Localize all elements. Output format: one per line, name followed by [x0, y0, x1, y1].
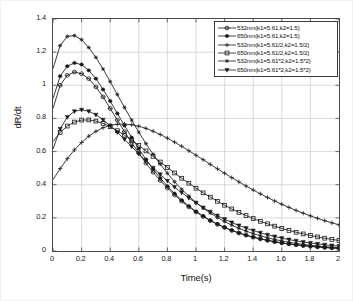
- x-tick-label: 2: [323, 254, 353, 263]
- x-tick-label: 1: [180, 254, 210, 263]
- legend-label: 532nm(k1=5.61*2,k2=1.5*2): [237, 57, 311, 65]
- y-tick-label: 1.2: [0, 46, 46, 55]
- x-tick-label: 1.6: [266, 254, 296, 263]
- legend-label: 532nm(k1=5.61/2,k2=1.5/2): [237, 41, 309, 49]
- y-tick-label: 0.2: [0, 212, 46, 221]
- chart-page: 00.20.40.60.811.21.4 00.20.40.60.811.21.…: [0, 0, 353, 301]
- legend-marker-icon: [217, 66, 237, 74]
- legend-item: 650nm(k1=5.61,k2=1.5): [217, 32, 335, 40]
- legend-item: 650nm(k1=5.61/2,k2=1.5/2): [217, 49, 335, 57]
- legend-marker-icon: [217, 57, 237, 65]
- legend-marker-icon: [217, 32, 237, 40]
- x-tick-label: 0.4: [94, 254, 124, 263]
- y-tick-label: 0.4: [0, 179, 46, 188]
- legend-marker-icon: [217, 41, 237, 49]
- x-tick-label: 1.2: [209, 254, 239, 263]
- legend-label: 650nm(k1=5.61,k2=1.5): [237, 32, 300, 40]
- legend: 532nm(k1=5.61,k2=1.5)650nm(k1=5.61,k2=1.…: [214, 21, 338, 77]
- y-tick-label: 1.4: [0, 13, 46, 22]
- legend-label: 650nm(k1=5.61/2,k2=1.5/2): [237, 49, 309, 57]
- legend-item: 532nm(k1=5.61,k2=1.5): [217, 24, 335, 32]
- legend-marker-icon: [217, 49, 237, 57]
- legend-marker-icon: [217, 24, 237, 32]
- x-tick-label: 0.8: [151, 254, 181, 263]
- y-tick-label: 0: [0, 245, 46, 254]
- x-tick-label: 1.8: [294, 254, 324, 263]
- y-tick-label: 1: [0, 79, 46, 88]
- x-tick-label: 0.2: [66, 254, 96, 263]
- legend-item: 650nm(k1=5.61*2,k2=1.5*2): [217, 65, 335, 73]
- x-tick-label: 0.6: [123, 254, 153, 263]
- x-tick-label: 1.4: [237, 254, 267, 263]
- y-tick-label: 0.8: [0, 112, 46, 121]
- y-tick-label: 0.6: [0, 146, 46, 155]
- x-axis-title: Time(s): [52, 272, 340, 283]
- legend-label: 532nm(k1=5.61,k2=1.5): [237, 24, 300, 32]
- x-tick-label: 0: [37, 254, 67, 263]
- legend-item: 532nm(k1=5.61*2,k2=1.5*2): [217, 57, 335, 65]
- y-axis-title: dR/dt: [12, 88, 23, 148]
- legend-item: 532nm(k1=5.61/2,k2=1.5/2): [217, 41, 335, 49]
- legend-label: 650nm(k1=5.61*2,k2=1.5*2): [237, 66, 311, 74]
